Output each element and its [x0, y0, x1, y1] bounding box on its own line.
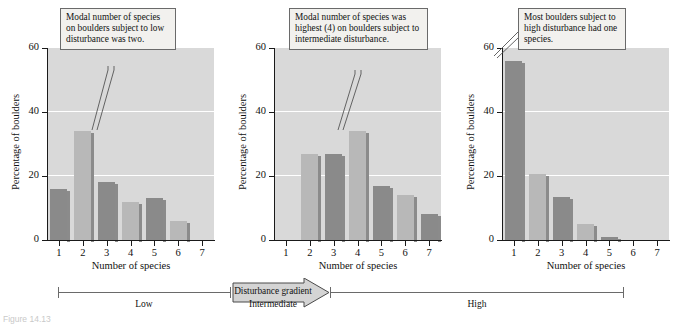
callout-low: Modal number of species on boulders subj…	[60, 8, 176, 50]
gradient-line-low	[58, 292, 230, 293]
gradient-arrow-label: Disturbance gradient	[232, 286, 314, 296]
gradient-label-high: High	[330, 299, 624, 309]
figure-container: Percentage of boulders Number of species…	[0, 0, 682, 324]
gradient-cap-left	[58, 287, 59, 298]
gradient-label-low: Low	[58, 299, 230, 309]
gradient-cap-mid-left	[230, 287, 231, 298]
callout-intermediate: Modal number of species was highest (4) …	[289, 8, 428, 50]
gradient-cap-right	[623, 287, 624, 298]
disturbance-gradient-strip: Disturbance gradient Low Intermediate Hi…	[0, 275, 682, 321]
gradient-label-intermediate: Intermediate	[232, 299, 314, 309]
callout-high: Most boulders subject to high disturbanc…	[518, 8, 626, 50]
gradient-cap-mid-right	[330, 287, 331, 298]
gradient-line-high	[330, 292, 624, 293]
figure-caption: Figure 14.13	[3, 314, 51, 324]
